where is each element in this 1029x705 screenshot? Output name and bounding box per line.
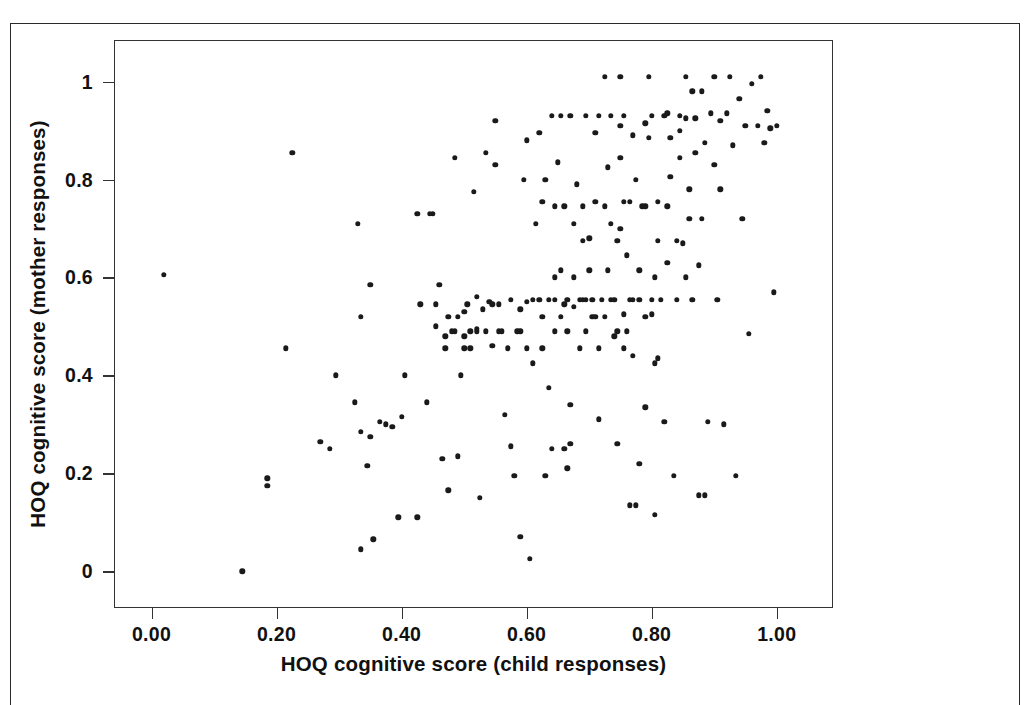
data-point [365, 463, 370, 468]
data-point [652, 512, 657, 517]
data-point [596, 417, 601, 422]
data-point [368, 282, 373, 287]
data-point [546, 385, 551, 390]
x-tick-label: 0.80 [632, 623, 671, 646]
data-point [758, 74, 763, 79]
data-point [561, 204, 566, 209]
data-point [630, 353, 635, 358]
data-point [633, 177, 638, 182]
y-tick-label: 1 [9, 70, 93, 93]
data-point [571, 304, 576, 309]
x-tick-label: 0.20 [257, 623, 296, 646]
data-point [596, 346, 601, 351]
data-point [705, 419, 710, 424]
data-point [549, 113, 554, 118]
data-point [668, 135, 673, 140]
x-tick-label: 1.00 [757, 623, 796, 646]
data-point [424, 400, 429, 405]
data-point [530, 360, 535, 365]
data-point [540, 346, 545, 351]
data-point [733, 473, 738, 478]
data-point [518, 307, 523, 312]
data-point [415, 515, 420, 520]
data-point [583, 329, 588, 334]
data-point [755, 123, 760, 128]
data-point [608, 221, 613, 226]
data-point [615, 238, 620, 243]
data-point [477, 495, 482, 500]
data-point [699, 89, 704, 94]
data-point [702, 140, 707, 145]
data-point [543, 177, 548, 182]
data-point [762, 140, 767, 145]
data-point [602, 204, 607, 209]
data-point [649, 113, 654, 118]
data-point [283, 346, 288, 351]
data-point [768, 125, 773, 130]
data-point [540, 199, 545, 204]
data-point [580, 204, 585, 209]
data-point [518, 534, 523, 539]
x-tick-mark [277, 608, 278, 619]
data-point [718, 118, 723, 123]
x-tick-mark [527, 608, 528, 619]
data-point [740, 216, 745, 221]
data-point [377, 419, 382, 424]
data-point [402, 373, 407, 378]
x-tick-label: 0.00 [132, 623, 171, 646]
data-point [718, 187, 723, 192]
data-point [333, 373, 338, 378]
y-tick-label: 0.4 [9, 364, 93, 387]
data-point [677, 128, 682, 133]
data-point [352, 400, 357, 405]
data-point [465, 302, 470, 307]
data-point [533, 221, 538, 226]
data-point [643, 405, 648, 410]
data-point [552, 297, 557, 302]
data-point [621, 312, 626, 317]
data-point [436, 282, 441, 287]
data-point [555, 160, 560, 165]
data-point [658, 297, 663, 302]
data-point [524, 299, 529, 304]
data-point [390, 424, 395, 429]
data-point [527, 556, 532, 561]
data-point [590, 297, 595, 302]
data-point [724, 111, 729, 116]
data-point [483, 329, 488, 334]
data-point [552, 329, 557, 334]
data-point [665, 260, 670, 265]
data-point [699, 216, 704, 221]
data-point [596, 113, 601, 118]
y-tick-mark [103, 375, 114, 376]
data-point [239, 569, 244, 574]
y-tick-label: 0.6 [9, 266, 93, 289]
data-point [774, 123, 779, 128]
data-point [455, 454, 460, 459]
data-point [668, 174, 673, 179]
data-point [655, 199, 660, 204]
data-point [452, 329, 457, 334]
y-tick-mark [103, 277, 114, 278]
data-point [643, 314, 648, 319]
data-point [643, 204, 648, 209]
data-point [621, 199, 626, 204]
data-point [690, 89, 695, 94]
data-point [630, 133, 635, 138]
data-point [468, 329, 473, 334]
data-point [630, 297, 635, 302]
data-point [493, 118, 498, 123]
data-point [621, 113, 626, 118]
data-point [615, 441, 620, 446]
data-point [627, 199, 632, 204]
data-point [474, 294, 479, 299]
data-point [508, 444, 513, 449]
data-point [646, 74, 651, 79]
data-point [602, 314, 607, 319]
data-point [605, 267, 610, 272]
data-point [665, 204, 670, 209]
data-point [749, 81, 754, 86]
data-point [674, 297, 679, 302]
data-point [524, 138, 529, 143]
data-point [536, 297, 541, 302]
